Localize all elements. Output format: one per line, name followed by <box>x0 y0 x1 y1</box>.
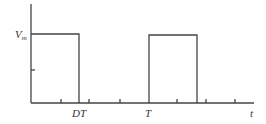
pulse-2 <box>149 35 197 103</box>
pulse-waveform-diagram: Vm DT T t <box>0 0 266 124</box>
y-label-vm: Vm <box>15 28 27 42</box>
pulse-1 <box>31 34 79 103</box>
x-label-dt: DT <box>71 107 87 119</box>
x-label-t-period: T <box>145 107 152 119</box>
x-axis-label-t: t <box>250 107 254 119</box>
